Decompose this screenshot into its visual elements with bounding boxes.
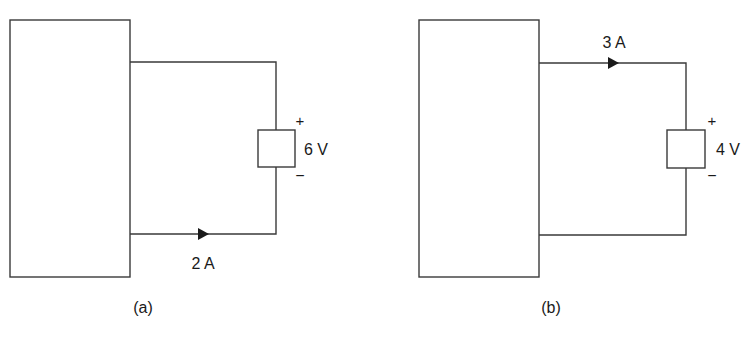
bottom-wire-a bbox=[130, 167, 276, 234]
plus-sign-b: + bbox=[708, 112, 717, 129]
current-label-b: 3 A bbox=[602, 34, 625, 51]
network-block-a bbox=[10, 20, 130, 277]
top-wire-b bbox=[539, 63, 686, 130]
current-arrow-icon-a bbox=[198, 228, 209, 240]
caption-a: (a) bbox=[133, 299, 153, 316]
network-block-b bbox=[419, 20, 539, 277]
top-wire-a bbox=[130, 62, 276, 130]
circuit-element-b bbox=[667, 130, 705, 168]
current-arrow-icon-b bbox=[608, 57, 619, 69]
current-label-a: 2 A bbox=[191, 255, 214, 272]
plus-sign-a: + bbox=[296, 112, 305, 129]
minus-sign-a: − bbox=[295, 167, 304, 184]
panel-a: 2 A + 6 V − (a) bbox=[10, 20, 328, 316]
bottom-wire-b bbox=[539, 168, 686, 235]
circuit-element-a bbox=[258, 130, 295, 167]
minus-sign-b: − bbox=[707, 167, 716, 184]
voltage-label-b: 4 V bbox=[716, 141, 740, 158]
voltage-label-a: 6 V bbox=[304, 141, 328, 158]
caption-b: (b) bbox=[541, 299, 561, 316]
circuit-diagram: 2 A + 6 V − (a) 3 A + 4 V − (b) bbox=[0, 0, 756, 337]
panel-b: 3 A + 4 V − (b) bbox=[419, 20, 740, 316]
